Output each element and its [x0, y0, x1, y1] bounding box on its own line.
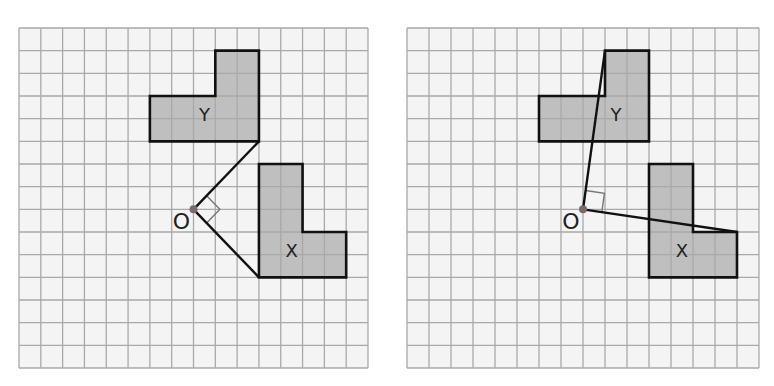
- origin-label: O: [173, 209, 190, 234]
- shape-label-y: Y: [198, 104, 211, 125]
- origin-label: O: [562, 209, 579, 234]
- origin-point: [579, 205, 587, 213]
- shape-label-x: X: [676, 240, 688, 261]
- shape-label-y: Y: [610, 104, 623, 125]
- grid-diagram: YXO: [406, 27, 760, 369]
- shape-label-x: X: [285, 240, 297, 261]
- left-diagram-panel: YXO: [18, 27, 369, 369]
- origin-point: [190, 205, 198, 213]
- right-diagram-panel: YXO: [406, 27, 760, 369]
- grid-diagram: YXO: [18, 27, 369, 369]
